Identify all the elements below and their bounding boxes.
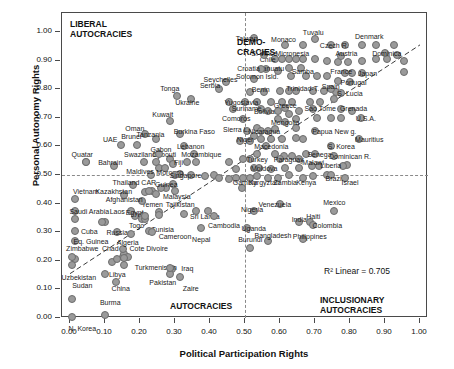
y-tick-mark (55, 260, 60, 261)
point-label: China (112, 284, 130, 291)
point-label: Samba (292, 67, 314, 74)
data-point (201, 172, 209, 180)
data-point (145, 187, 153, 195)
x-tick-0.60: 0.60 (264, 327, 294, 336)
data-point (197, 224, 205, 232)
data-point (400, 68, 408, 76)
point-label: France (330, 67, 352, 74)
data-point (358, 41, 366, 49)
point-label: Afghanistan (106, 196, 143, 203)
point-label: Kuwait (152, 110, 173, 117)
data-point (246, 244, 254, 252)
x-tick-0.40: 0.40 (194, 327, 224, 336)
data-point (311, 55, 319, 63)
data-point (313, 72, 321, 80)
data-point (276, 87, 284, 95)
data-point (330, 207, 338, 215)
y-tick-mark (55, 60, 60, 61)
data-point (127, 230, 135, 238)
point-label: Seychelles (204, 76, 238, 83)
x-tick-mark (384, 318, 385, 323)
point-label: Togo (129, 222, 144, 229)
point-label: Comoros (222, 114, 250, 121)
x-tick-0.30: 0.30 (159, 327, 189, 336)
point-label: Maldives (126, 167, 154, 174)
point-label: Czech R. (320, 41, 349, 48)
x-tick-mark (139, 318, 140, 323)
data-point (313, 114, 321, 122)
x-axis-title: Political Participation Rights (61, 348, 427, 359)
data-point (344, 58, 352, 66)
point-label: Russia (107, 229, 128, 236)
point-label: Uganda (241, 224, 266, 231)
data-point (141, 212, 149, 220)
point-label: Gabon (150, 146, 171, 153)
point-label: Mexico (323, 199, 345, 206)
r-squared-annotation: R² Linear = 0.705 (324, 266, 390, 276)
data-point (101, 270, 109, 278)
data-point (71, 195, 79, 203)
data-point (140, 158, 148, 166)
y-tick-0.50: 0.50 (22, 169, 52, 178)
data-point (71, 227, 79, 235)
y-tick-mark (55, 117, 60, 118)
point-label: Burkina Faso (174, 127, 215, 134)
quadrant-label-autocracies: AUTOCRACIES (170, 301, 232, 311)
point-label: Sierra L. (223, 126, 249, 133)
point-label: Iraq (181, 264, 193, 271)
point-label: Tuvalu (303, 29, 324, 36)
quadrant-label-inclusionary-autocracies: INCLUSIONARY AUTOCRACIES (320, 295, 384, 315)
point-label: Colombia (312, 222, 342, 229)
point-label: Tanzania (136, 130, 164, 137)
data-point (299, 135, 307, 143)
point-label: Niger (237, 136, 254, 143)
scatter-chart-figure: Personal Autonomy Rights Political Parti… (0, 0, 454, 369)
data-point (166, 117, 174, 125)
y-tick-mark (55, 145, 60, 146)
point-label: Dominican R. (329, 153, 371, 160)
point-label: Cuba (81, 227, 98, 234)
data-point (117, 141, 125, 149)
point-label: Cameroon (159, 233, 192, 240)
reference-line-x-0.50 (245, 13, 246, 318)
x-tick-mark (419, 318, 420, 323)
point-label: Thailand (113, 179, 140, 186)
point-label: Cambodia (208, 222, 240, 229)
y-tick-0.40: 0.40 (22, 198, 52, 207)
data-point (311, 35, 319, 43)
data-point (152, 158, 160, 166)
x-tick-1.00: 1.00 (404, 327, 434, 336)
data-point (215, 174, 223, 182)
data-point (119, 245, 127, 253)
point-label: Kazakhstan (95, 187, 132, 194)
y-tick-mark (55, 317, 60, 318)
point-label: Malawi (302, 159, 324, 166)
y-tick-mark (55, 88, 60, 89)
point-label: Haiti (306, 213, 320, 220)
y-tick-0.60: 0.60 (22, 140, 52, 149)
point-label: Trinidad-T. (286, 84, 319, 91)
x-tick-0.20: 0.20 (124, 327, 154, 336)
point-label: Benin (252, 86, 270, 93)
x-tick-mark (174, 318, 175, 323)
data-point (98, 218, 106, 226)
data-point (192, 158, 200, 166)
y-tick-mark (55, 231, 60, 232)
data-point (337, 114, 345, 122)
point-label: Sao Tome (305, 104, 336, 111)
point-label: U.S.A. (356, 114, 376, 121)
y-tick-0.80: 0.80 (22, 83, 52, 92)
point-label: Algeria (117, 239, 139, 246)
point-label: UAE (103, 136, 117, 143)
point-label: Solomon Isld. (236, 73, 278, 80)
y-tick-0.00: 0.00 (22, 312, 52, 321)
quadrant-label-democracies: DEMO- CRACIES (237, 37, 275, 57)
data-point (68, 313, 76, 321)
point-label: Tonga (160, 84, 179, 91)
point-label: Spain (322, 83, 340, 90)
point-label: Lebanon (177, 143, 204, 150)
point-label: Fiji (174, 159, 183, 166)
y-tick-mark (55, 174, 60, 175)
point-label: Uzbekistan (61, 273, 96, 280)
point-label: Nigeria (241, 206, 263, 213)
